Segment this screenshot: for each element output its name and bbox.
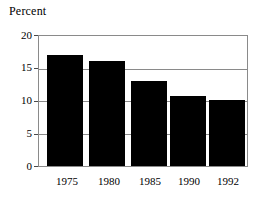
bars-layer — [39, 36, 247, 166]
x-axis-label-1992: 1992 — [203, 175, 253, 187]
y-axis-tick-label-20: 20 — [6, 30, 32, 41]
y-axis-tick-label-10: 10 — [6, 95, 32, 106]
y-axis-tick-label-0: 0 — [6, 161, 32, 172]
bar-1990 — [170, 96, 206, 166]
bar-1992 — [209, 100, 245, 166]
plot-area — [38, 35, 248, 167]
y-axis-tick-label-5: 5 — [6, 128, 32, 139]
y-axis-tick-label-15: 15 — [6, 62, 32, 73]
bar-1985 — [131, 81, 167, 166]
chart-title: Percent — [9, 4, 46, 18]
bar-1975 — [47, 55, 83, 166]
bar-1980 — [89, 61, 125, 166]
bar-chart-figure: Percent 20 15 10 5 0 1975 1980 1985 1990… — [0, 0, 266, 198]
